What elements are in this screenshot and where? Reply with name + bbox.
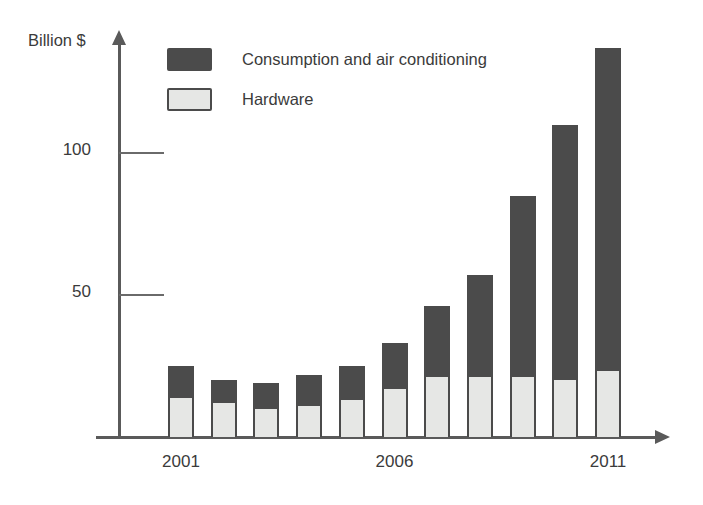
- bar-segment-hardware: [341, 398, 363, 437]
- bar-segment-hardware: [469, 375, 491, 437]
- bar-segment-consumption: [298, 377, 320, 404]
- bar-segment-hardware: [170, 396, 192, 437]
- bar-2006: [382, 343, 408, 437]
- bar-segment-hardware: [255, 407, 277, 437]
- x-axis-label-2006: 2006: [376, 452, 414, 472]
- x-axis-label-2011: 2011: [590, 452, 627, 472]
- bar-2009: [510, 196, 536, 437]
- bar-2001: [168, 366, 194, 437]
- bar-segment-consumption: [255, 385, 277, 407]
- bars-layer: [0, 0, 703, 505]
- bar-segment-consumption: [384, 345, 406, 387]
- bar-segment-consumption: [170, 368, 192, 396]
- bar-2003: [253, 383, 279, 437]
- bar-2010: [552, 125, 578, 437]
- bar-segment-hardware: [426, 375, 448, 437]
- bar-segment-consumption: [426, 308, 448, 375]
- bar-segment-consumption: [512, 198, 534, 375]
- bar-segment-hardware: [384, 387, 406, 437]
- x-axis-label-2001: 2001: [162, 452, 200, 472]
- bar-segment-consumption: [469, 277, 491, 375]
- bar-2011: [595, 48, 621, 437]
- bar-segment-hardware: [512, 375, 534, 437]
- chart-container: Billion $ 100 50 Consumption and air con…: [0, 0, 703, 505]
- bar-segment-consumption: [597, 50, 619, 369]
- bar-segment-hardware: [298, 404, 320, 437]
- bar-2007: [424, 306, 450, 437]
- bar-segment-consumption: [341, 368, 363, 398]
- bar-2008: [467, 275, 493, 437]
- bar-2005: [339, 366, 365, 437]
- bar-segment-consumption: [213, 382, 235, 401]
- bar-segment-hardware: [554, 378, 576, 437]
- bar-2002: [211, 380, 237, 437]
- bar-segment-hardware: [597, 369, 619, 437]
- bar-segment-hardware: [213, 401, 235, 437]
- bar-2004: [296, 375, 322, 437]
- bar-segment-consumption: [554, 127, 576, 378]
